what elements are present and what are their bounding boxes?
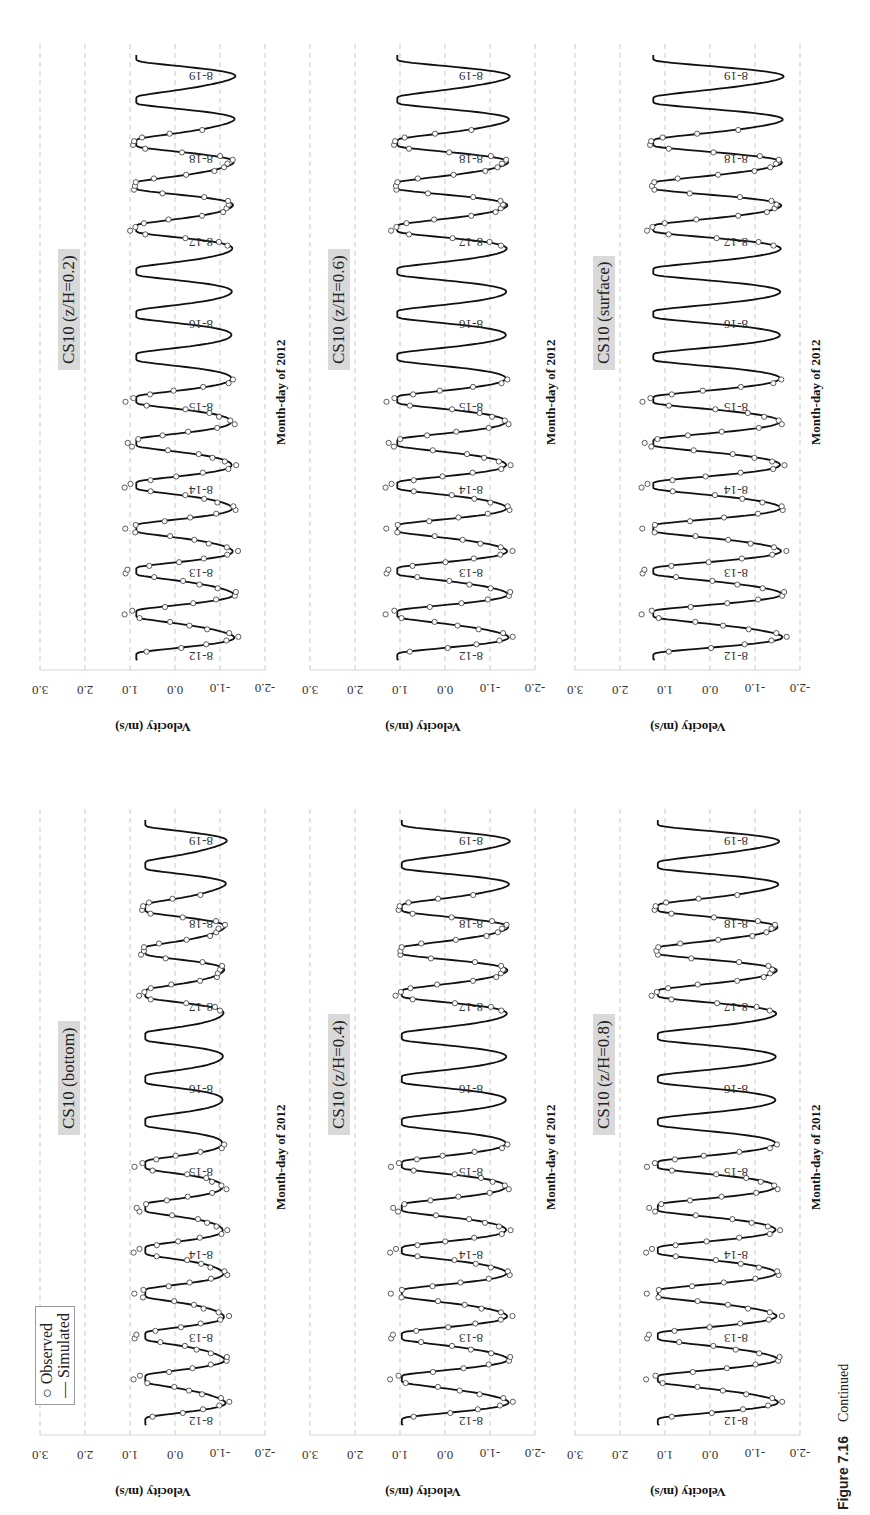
observed-point xyxy=(749,1220,754,1225)
observed-point xyxy=(166,1284,171,1289)
observed-point xyxy=(656,1295,661,1300)
observed-point xyxy=(720,623,725,628)
observed-point xyxy=(176,1239,181,1244)
observed-point xyxy=(425,433,430,438)
observed-point xyxy=(490,918,495,923)
observed-point xyxy=(396,1161,401,1166)
observed-point xyxy=(146,900,151,905)
observed-point xyxy=(164,1198,169,1203)
velocity-plot xyxy=(565,20,835,725)
observed-point xyxy=(388,1164,393,1169)
observed-point xyxy=(496,1224,501,1229)
observed-point xyxy=(770,552,775,557)
observed-point xyxy=(499,161,504,166)
observed-point xyxy=(735,582,740,587)
observed-point xyxy=(508,1354,513,1359)
y-tick-label: -2.0 xyxy=(790,680,811,696)
observed-point xyxy=(470,384,475,389)
observed-point xyxy=(660,1381,665,1386)
observed-point xyxy=(690,1284,695,1289)
observed-point xyxy=(782,463,787,468)
observed-point xyxy=(713,1258,718,1263)
observed-point xyxy=(652,522,657,527)
observed-point xyxy=(404,221,409,226)
observed-point xyxy=(640,526,645,531)
observed-point xyxy=(660,135,665,140)
observed-point xyxy=(386,440,391,445)
observed-point xyxy=(467,1217,472,1222)
observed-point xyxy=(752,455,757,460)
observed-point xyxy=(391,1205,396,1210)
observed-point xyxy=(186,1388,191,1393)
observed-point xyxy=(226,466,231,471)
observed-point xyxy=(756,425,761,430)
y-tick-label: 0.0 xyxy=(437,682,453,698)
observed-point xyxy=(167,1369,172,1374)
observed-point xyxy=(198,892,203,897)
y-tick-label: 1.0 xyxy=(657,682,673,698)
observed-point xyxy=(645,481,650,486)
observed-point xyxy=(497,1403,502,1408)
observed-point xyxy=(150,1168,155,1173)
observed-point xyxy=(711,915,716,920)
day-label: 8-18 xyxy=(459,916,483,932)
day-label: 8-18 xyxy=(724,151,748,167)
observed-point xyxy=(411,1414,416,1419)
observed-point xyxy=(389,481,394,486)
observed-point xyxy=(733,1347,738,1352)
observed-point xyxy=(488,1265,493,1270)
observed-point xyxy=(141,945,146,950)
observed-point xyxy=(501,1396,506,1401)
observed-point xyxy=(440,1153,445,1158)
observed-point xyxy=(505,504,510,509)
observed-point xyxy=(227,631,232,636)
y-tick-label: -2.0 xyxy=(255,680,276,696)
simulated-line xyxy=(658,820,779,1425)
observed-point xyxy=(148,997,153,1002)
observed-point xyxy=(407,403,412,408)
observed-point xyxy=(505,1142,510,1147)
observed-point xyxy=(479,1306,484,1311)
observed-point xyxy=(483,168,488,173)
observed-point xyxy=(406,146,411,151)
day-label: 8-19 xyxy=(724,68,748,84)
observed-point xyxy=(122,612,127,617)
observed-point xyxy=(726,537,731,542)
observed-point xyxy=(470,470,475,475)
observed-point xyxy=(765,1403,770,1408)
y-axis-label: Velocity (m/s) xyxy=(115,1484,191,1500)
observed-point xyxy=(487,1190,492,1195)
observed-point xyxy=(737,959,742,964)
observed-point xyxy=(472,1149,477,1154)
observed-point xyxy=(737,1149,742,1154)
observed-point xyxy=(457,1388,462,1393)
observed-point xyxy=(411,478,416,483)
observed-point xyxy=(640,399,645,404)
day-label: 8-14 xyxy=(724,482,748,498)
observed-point xyxy=(478,541,483,546)
y-tick-label: 2.0 xyxy=(77,1447,93,1463)
observed-point xyxy=(473,1321,478,1326)
observed-point xyxy=(154,1254,159,1259)
observed-point xyxy=(430,1284,435,1289)
observed-point xyxy=(502,418,507,423)
y-tick-label: 0.0 xyxy=(167,1447,183,1463)
observed-point xyxy=(772,1183,777,1188)
observed-point xyxy=(469,213,474,218)
observed-point xyxy=(693,619,698,624)
observed-point xyxy=(222,459,227,464)
observed-point xyxy=(134,1332,139,1337)
observed-point xyxy=(194,1347,199,1352)
observed-point xyxy=(402,135,407,140)
observed-point xyxy=(655,437,660,442)
observed-point xyxy=(666,232,671,237)
observed-point xyxy=(440,474,445,479)
observed-point xyxy=(771,545,776,550)
observed-point xyxy=(219,1183,224,1188)
observed-point xyxy=(200,470,205,475)
observed-point xyxy=(739,556,744,561)
observed-point xyxy=(498,545,503,550)
observed-point xyxy=(234,463,239,468)
observed-point xyxy=(407,649,412,654)
observed-point xyxy=(446,1325,451,1330)
